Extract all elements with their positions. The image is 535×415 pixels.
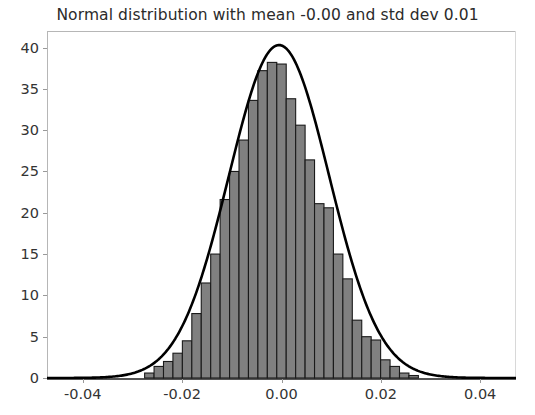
y-axis-tick-label: 30 [0,122,39,138]
x-axis-tick-label: -0.02 [142,386,222,402]
x-axis-tick-label: 0.02 [341,386,421,402]
x-axis-tick-mark [83,379,84,383]
y-axis-tick-mark [43,89,47,90]
y-axis-tick-label: 40 [0,40,39,56]
histogram-bar [400,373,409,378]
histogram-bar [362,337,371,378]
histogram-bar [230,171,239,378]
y-axis-tick-mark [43,48,47,49]
y-axis-tick-mark [43,337,47,338]
histogram-bar [164,361,173,378]
histogram-bar [201,283,210,378]
plot-axes-area [47,31,516,379]
y-axis-tick-mark [43,254,47,255]
y-axis-tick-label: 15 [0,246,39,262]
histogram-bar [296,125,305,378]
x-axis-tick-label: 0.00 [242,386,322,402]
y-axis-tick-mark [43,213,47,214]
x-axis-tick-mark [480,379,481,383]
y-axis-tick-mark [43,130,47,131]
y-axis-tick-label: 25 [0,163,39,179]
y-axis-tick-label: 35 [0,81,39,97]
histogram-bar [192,314,201,378]
histogram-bar [145,373,154,378]
histogram-bar [352,320,361,378]
histogram-bar [324,208,333,378]
y-axis-tick-label: 5 [0,329,39,345]
histogram-bar [305,160,314,378]
y-axis-tick-mark [43,295,47,296]
histogram-bar [239,140,248,378]
histogram-bar [286,99,295,378]
histogram-bar [267,62,276,378]
y-axis-tick-label: 20 [0,205,39,221]
histogram-bar [333,254,342,378]
histogram-bar [248,100,257,378]
histogram-bar [381,360,390,378]
histogram-bar [343,279,352,378]
y-axis-tick-label: 10 [0,287,39,303]
x-axis-tick-mark [282,379,283,383]
y-axis-tick-mark [43,171,47,172]
chart-figure: Normal distribution with mean -0.00 and … [0,0,535,415]
histogram-bar [390,366,399,378]
histogram-bar [182,341,191,378]
histogram-bar [277,64,286,378]
y-axis-tick-mark [43,378,47,379]
x-axis-tick-mark [182,379,183,383]
plot-content [47,31,516,379]
histogram-bar [258,71,267,378]
histogram-bar [173,353,182,378]
chart-title: Normal distribution with mean -0.00 and … [0,6,535,24]
histogram-bar [409,376,418,378]
histogram-bar [315,204,324,378]
histogram-bar [371,340,380,378]
x-axis-tick-label: -0.04 [43,386,123,402]
histogram-bar [154,366,163,378]
y-axis-tick-label: 0 [0,370,39,386]
histogram-bar [211,254,220,378]
histogram-bar [220,200,229,378]
x-axis-tick-label: 0.04 [440,386,520,402]
x-axis-tick-mark [381,379,382,383]
